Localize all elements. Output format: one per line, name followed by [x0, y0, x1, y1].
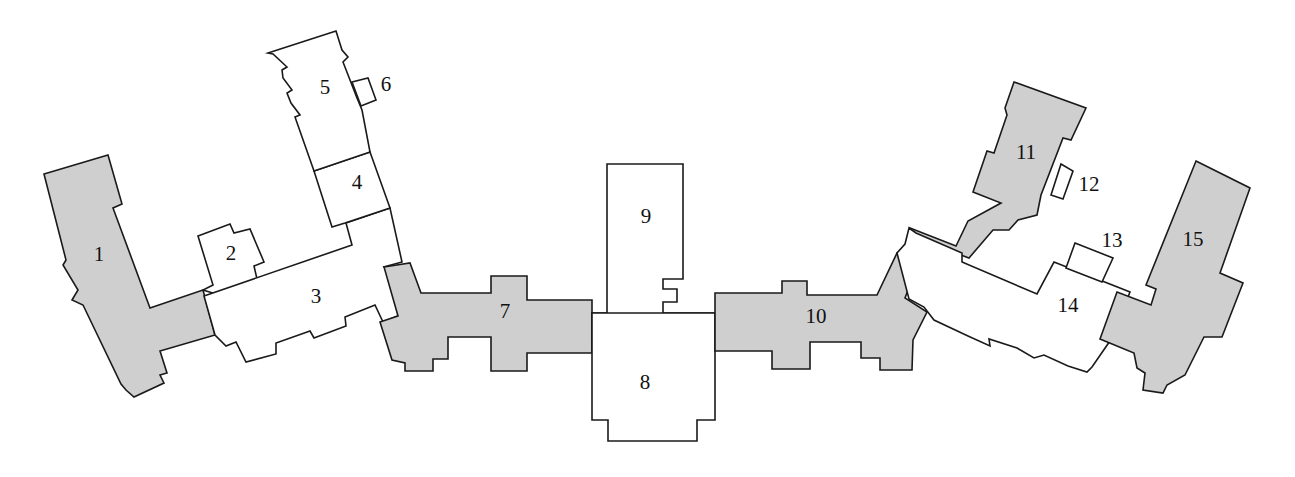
room-label-5: 5 — [320, 75, 331, 99]
room-label-12: 12 — [1079, 172, 1100, 196]
room-label-7: 7 — [500, 299, 511, 323]
room-label-15: 15 — [1183, 227, 1204, 251]
room-label-9: 9 — [641, 204, 652, 228]
room-15 — [1100, 161, 1250, 393]
room-label-1: 1 — [94, 242, 105, 266]
room-label-14: 14 — [1058, 293, 1080, 317]
room-label-11: 11 — [1016, 140, 1036, 164]
room-label-6: 6 — [381, 72, 392, 96]
room-label-2: 2 — [226, 241, 237, 265]
room-12 — [1051, 164, 1073, 199]
room-5 — [268, 31, 370, 171]
room-14 — [897, 228, 1130, 372]
room-label-8: 8 — [640, 370, 651, 394]
room-1 — [44, 155, 215, 397]
room-label-3: 3 — [311, 284, 322, 308]
room-7 — [380, 263, 592, 371]
room-label-4: 4 — [352, 170, 363, 194]
room-label-13: 13 — [1102, 228, 1123, 252]
room-label-10: 10 — [806, 304, 827, 328]
room-8 — [592, 313, 715, 441]
floor-plan: 1 2 3 4 5 6 7 8 9 10 11 12 13 14 15 — [0, 0, 1295, 477]
